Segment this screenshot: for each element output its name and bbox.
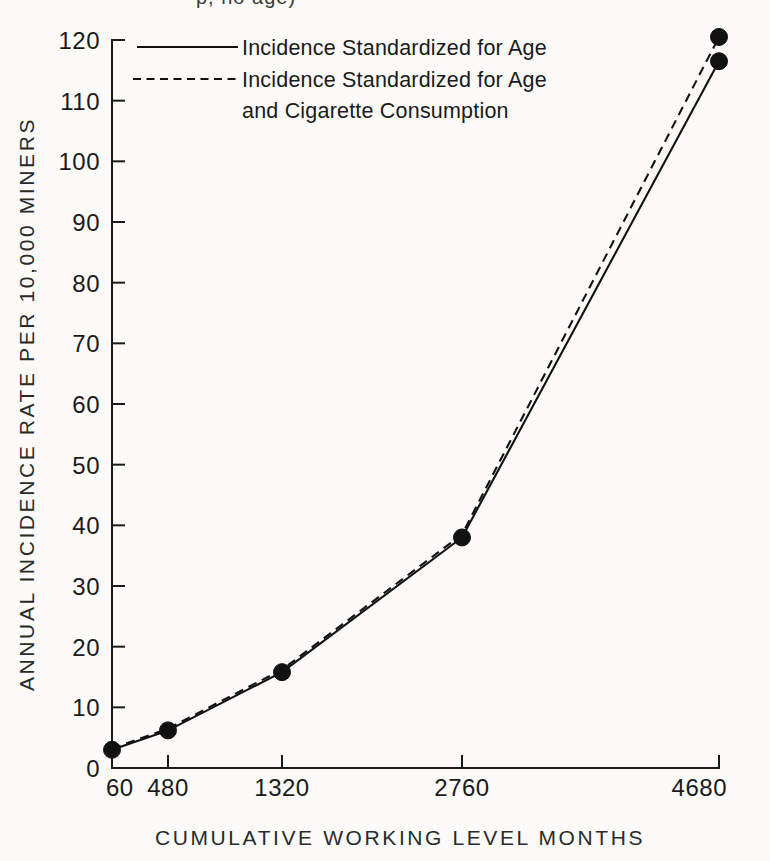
series-markers-age-and-cigarette — [711, 28, 728, 45]
y-axis-ticks — [112, 40, 125, 707]
line-chart: 0102030405060708090100110120 60480132027… — [0, 0, 770, 861]
y-tick-label-90: 90 — [72, 209, 100, 236]
data-point-age-2760 — [454, 529, 471, 546]
x-axis-tick-labels: 60480132027604680 — [106, 774, 727, 801]
x-tick-label-480: 480 — [147, 774, 189, 801]
data-point-age-1320 — [274, 664, 291, 681]
legend: Incidence Standardized for Age Incidence… — [133, 36, 547, 123]
x-tick-label-2760: 2760 — [434, 774, 489, 801]
x-axis-title: CUMULATIVE WORKING LEVEL MONTHS — [155, 826, 645, 849]
x-tick-label-4680: 4680 — [672, 774, 727, 801]
legend-label-age-cigarette-line2: and Cigarette Consumption — [242, 99, 509, 123]
y-tick-label-10: 10 — [72, 694, 100, 721]
data-point-age-4680 — [711, 53, 728, 70]
y-tick-label-60: 60 — [72, 391, 100, 418]
y-tick-label-70: 70 — [72, 330, 100, 357]
series-line-age-and-cigarette — [112, 37, 719, 749]
y-tick-label-110: 110 — [60, 88, 100, 115]
y-axis-title: ANNUAL INCIDENCE RATE PER 10,000 MINERS — [15, 117, 38, 691]
legend-label-age-cigarette-line1: Incidence Standardized for Age — [242, 68, 547, 92]
x-tick-label-1320: 1320 — [254, 774, 309, 801]
data-point-age-60 — [104, 741, 121, 758]
y-tick-label-20: 20 — [72, 634, 100, 661]
x-axis-ticks — [112, 755, 719, 768]
series-markers-age — [104, 53, 728, 759]
data-point-age-and-cigarette-4680 — [711, 28, 728, 45]
series-line-age — [112, 61, 719, 750]
y-tick-label-80: 80 — [72, 270, 100, 297]
y-tick-label-50: 50 — [72, 452, 100, 479]
y-axis-tick-labels: 0102030405060708090100110120 — [58, 27, 100, 782]
y-tick-label-0: 0 — [86, 755, 100, 782]
data-point-age-480 — [160, 722, 177, 739]
figure-container: p, no age) 0102030405060708090100110120 … — [0, 0, 770, 861]
x-tick-label-60: 60 — [106, 774, 134, 801]
y-tick-label-120: 120 — [58, 27, 100, 54]
legend-label-age: Incidence Standardized for Age — [242, 36, 547, 60]
y-tick-label-100: 100 — [58, 148, 100, 175]
y-tick-label-30: 30 — [72, 573, 100, 600]
y-tick-label-40: 40 — [72, 512, 100, 539]
